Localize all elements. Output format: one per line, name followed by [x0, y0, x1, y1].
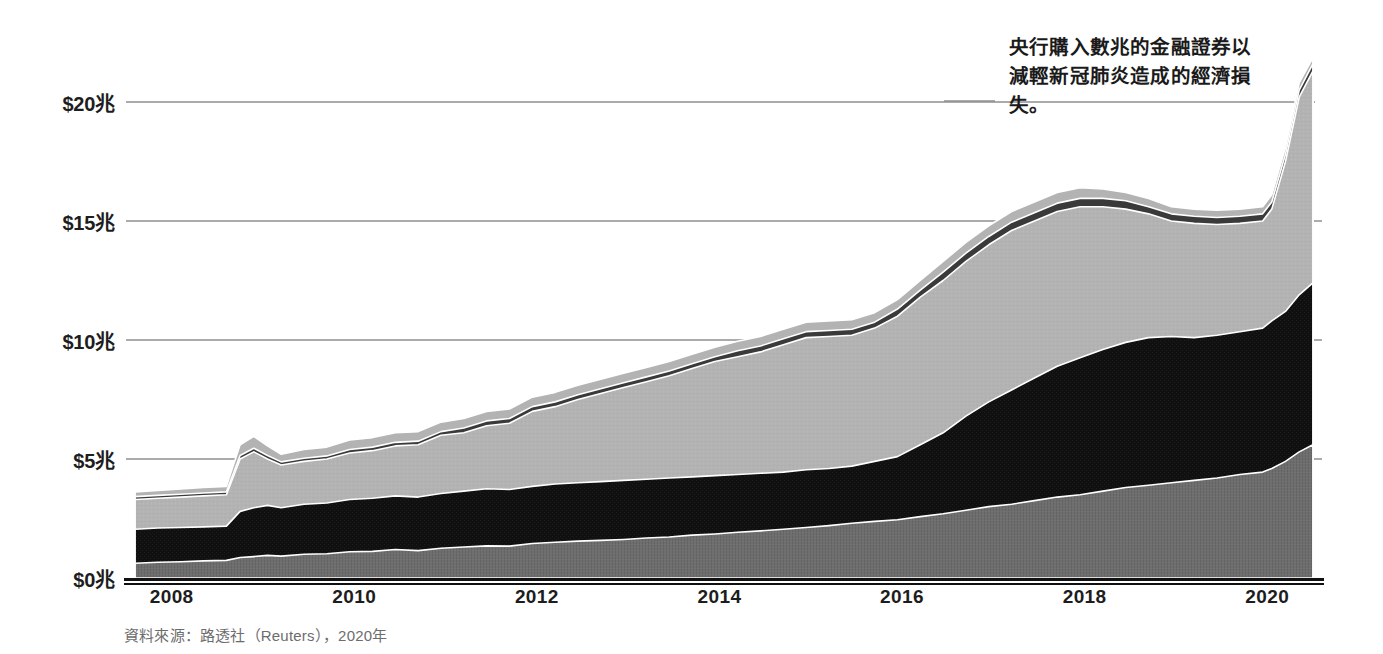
y-tick-label-15: $15兆 [0, 207, 115, 236]
x-tick-label-2016: 2016 [842, 586, 962, 608]
x-tick-label-2010: 2010 [294, 586, 414, 608]
y-tick-label-5: $5兆 [0, 445, 115, 474]
x-tick-label-2018: 2018 [1025, 586, 1145, 608]
x-tick-label-2020: 2020 [1207, 586, 1327, 608]
source-note: 資料來源：路透社（Reuters），2020年 [124, 624, 388, 645]
area-layers [135, 58, 1313, 578]
stacked-area-chart: $0兆 $5兆 $10兆 $15兆 $20兆 2008 2010 2012 20… [0, 0, 1383, 654]
chart-annotation: 央行購入數兆的金融證券以減輕新冠肺炎造成的經濟損失。 [1009, 33, 1269, 120]
x-tick-label-2008: 2008 [112, 586, 232, 608]
x-axis-line [124, 580, 1324, 585]
y-tick-label-0: $0兆 [0, 564, 115, 593]
x-tick-label-2014: 2014 [659, 586, 779, 608]
x-tick-label-2012: 2012 [477, 586, 597, 608]
y-tick-label-10: $10兆 [0, 326, 115, 355]
y-tick-label-20: $20兆 [0, 88, 115, 117]
